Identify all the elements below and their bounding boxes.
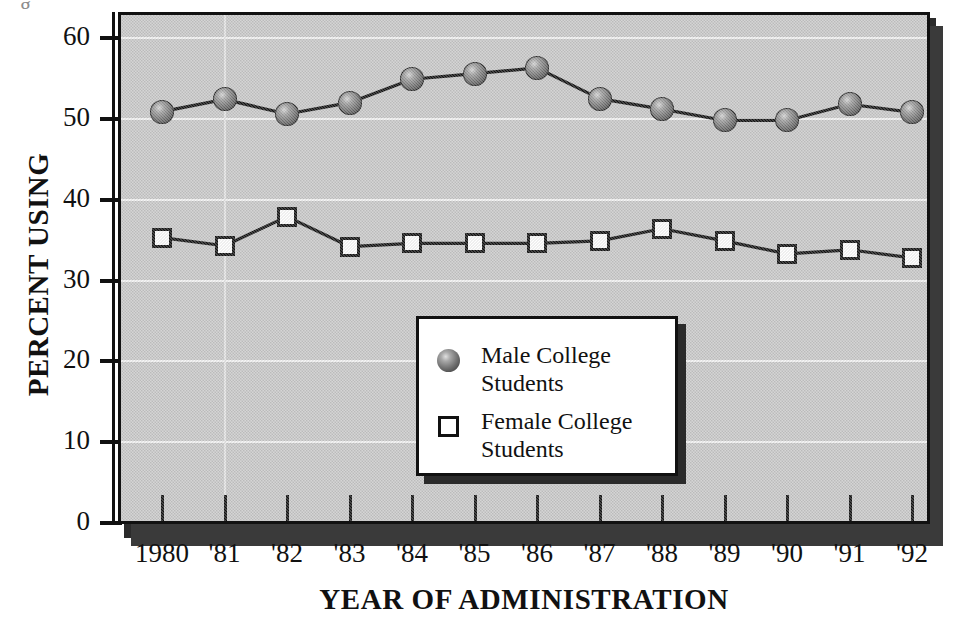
y-axis-title: PERCENT USING: [22, 40, 55, 510]
x-tick-86: [536, 495, 539, 521]
x-tick-label-90: '90: [771, 540, 803, 567]
legend-label-male-line2: Students: [481, 369, 611, 397]
data-point-female-1992: [902, 248, 922, 268]
data-point-female-1983: [340, 237, 360, 257]
data-point-female-1990: [777, 244, 797, 264]
legend-swatch-female: [419, 401, 481, 457]
legend-label-female-line1: Female College: [481, 407, 632, 435]
x-tick-92: [911, 495, 914, 521]
data-point-female-1987: [590, 231, 610, 251]
x-tick-82: [286, 495, 289, 521]
data-point-male-1986: [525, 56, 549, 80]
gridline-vertical: [224, 15, 226, 521]
legend-label-female: Female College Students: [481, 401, 632, 463]
data-point-female-1989: [715, 231, 735, 251]
gridline-y-40: [121, 199, 927, 201]
y-tick-label-0: 0: [28, 508, 90, 535]
legend-label-male: Male College Students: [481, 335, 611, 397]
data-point-male-1983: [338, 91, 362, 115]
x-tick-label-92: '92: [896, 540, 928, 567]
data-point-male-1984: [400, 67, 424, 91]
x-tick-label-84: '84: [396, 540, 428, 567]
gridline-y-30: [121, 280, 927, 282]
data-point-male-1980: [150, 100, 174, 124]
gridline-y-60: [121, 37, 927, 39]
x-tick-label-82: '82: [271, 540, 303, 567]
x-tick-label-85: '85: [459, 540, 491, 567]
x-tick-91: [849, 495, 852, 521]
sphere-marker-icon: [437, 349, 460, 372]
x-tick-85: [474, 495, 477, 521]
x-tick-label-86: '86: [521, 540, 553, 567]
data-point-male-1989: [713, 108, 737, 132]
x-tick-label-88: '88: [646, 540, 678, 567]
x-tick-90: [786, 495, 789, 521]
legend-item-female: Female College Students: [419, 401, 675, 463]
data-point-female-1980: [152, 228, 172, 248]
x-tick-81: [224, 495, 227, 521]
data-point-male-1991: [838, 92, 862, 116]
legend-swatch-male: [419, 335, 481, 391]
x-tick-label-83: '83: [334, 540, 366, 567]
legend-item-male: Male College Students: [419, 335, 675, 397]
data-point-female-1985: [465, 233, 485, 253]
series-line-male: [162, 68, 912, 121]
data-point-male-1982: [275, 102, 299, 126]
chart-figure: g 6050403020100 1980'81'82'83'84'85'86'8…: [0, 0, 965, 629]
x-tick-label-89: '89: [709, 540, 741, 567]
data-point-female-1986: [527, 233, 547, 253]
open-square-marker-icon: [438, 416, 459, 437]
data-point-male-1985: [463, 62, 487, 86]
x-tick-87: [599, 495, 602, 521]
x-tick-88: [661, 495, 664, 521]
data-point-female-1988: [652, 219, 672, 239]
data-point-female-1991: [840, 240, 860, 260]
x-tick-label-91: '91: [834, 540, 866, 567]
data-point-male-1992: [900, 100, 924, 124]
legend-label-male-line1: Male College: [481, 341, 611, 369]
series-line-female: [162, 217, 912, 258]
x-tick-label-81: '81: [209, 540, 241, 567]
data-point-female-1982: [277, 207, 297, 227]
x-axis-title: YEAR OF ADMINISTRATION: [118, 583, 930, 616]
y-axis-spine: [112, 12, 115, 524]
x-tick-89: [724, 495, 727, 521]
gridline-y-50: [121, 118, 927, 120]
x-tick-1980: [161, 495, 164, 521]
data-point-male-1990: [775, 108, 799, 132]
cropped-title-artifact: g: [20, 0, 32, 9]
x-tick-label-87: '87: [584, 540, 616, 567]
data-point-female-1984: [402, 233, 422, 253]
legend-label-female-line2: Students: [481, 435, 632, 463]
data-point-male-1987: [588, 87, 612, 111]
x-tick-83: [349, 495, 352, 521]
legend-box: Male College Students Female College Stu…: [416, 316, 678, 476]
x-tick-84: [411, 495, 414, 521]
x-tick-label-1980: 1980: [135, 540, 189, 567]
